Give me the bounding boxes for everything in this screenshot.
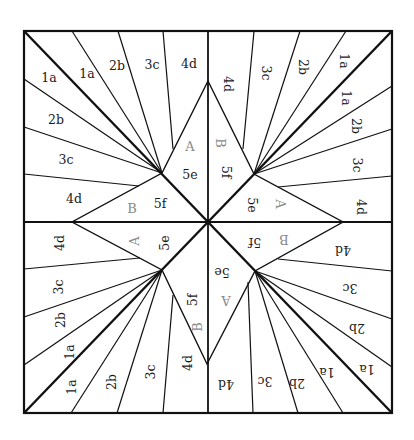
piece-number-label: 2b: [104, 374, 119, 390]
piece-number-label: 4d: [335, 243, 351, 258]
section-letter-label: A: [273, 198, 288, 209]
piece-number-label: 2b: [349, 321, 365, 336]
piece-number-label: 2b: [48, 112, 64, 127]
piece-number-label: 4d: [180, 355, 195, 371]
piece-number-label: 5e: [157, 235, 172, 250]
piece-number-label: 5e: [214, 265, 229, 280]
piece-number-label: 2b: [349, 118, 364, 134]
piece-number-label: 3c: [343, 281, 358, 296]
piece-number-label: 4d: [218, 377, 234, 392]
center-point: [206, 220, 210, 224]
section-letter-label: B: [127, 201, 137, 216]
piece-number-label: 2b: [53, 312, 68, 328]
piece-number-label: 2b: [289, 376, 305, 391]
piece-number-label: 5f: [154, 196, 168, 211]
piece-number-label: 3c: [145, 57, 160, 72]
piece-number-label: 4d: [52, 235, 67, 251]
piece-number-label: 3c: [51, 280, 66, 295]
piece-number-label: 5f: [185, 292, 200, 306]
section-letter-label: A: [184, 139, 195, 154]
piece-number-label: 3c: [258, 374, 273, 389]
piece-number-label: 5f: [219, 166, 234, 180]
piece-number-label: 3c: [259, 66, 274, 81]
section-letter-label: B: [279, 232, 289, 247]
piece-number-label: 5f: [247, 235, 261, 250]
piece-number-label: 3c: [59, 152, 74, 167]
piece-number-label: 1a: [359, 362, 375, 377]
piece-number-label: 3c: [143, 365, 158, 380]
section-letter-label: A: [221, 293, 232, 308]
piece-number-label: 1a: [64, 379, 79, 395]
piece-number-label: 1a: [41, 70, 57, 85]
piece-number-label: 4d: [66, 191, 82, 206]
piece-number-label: 1a: [319, 365, 335, 380]
piece-number-label: 4d: [221, 76, 236, 92]
section-letter-label: B: [190, 322, 205, 332]
piece-number-label: 1a: [339, 90, 354, 106]
star-block-pattern: 1a1a2b3c4d2b3c4dA5eB5f4d3c2b1a1a2b3c4dB5…: [0, 0, 414, 440]
piece-number-label: 4d: [354, 199, 369, 215]
piece-number-label: 1a: [337, 53, 352, 69]
section-letter-label: A: [127, 236, 142, 247]
piece-number-label: 5e: [245, 197, 260, 212]
section-letter-label: B: [213, 138, 228, 148]
piece-number-label: 3c: [350, 158, 365, 173]
piece-number-label: 1a: [62, 344, 77, 360]
piece-number-label: 2b: [109, 58, 125, 73]
piece-number-label: 1a: [79, 66, 95, 81]
piece-number-label: 5e: [182, 167, 197, 182]
piece-number-label: 2b: [296, 59, 311, 75]
piece-number-label: 4d: [181, 56, 197, 71]
